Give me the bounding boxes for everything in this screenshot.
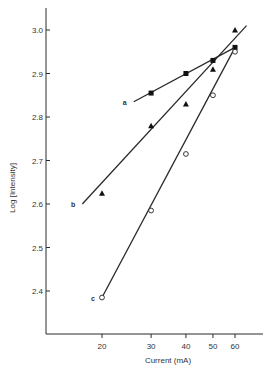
- square-marker: [183, 71, 188, 76]
- y-axis-label: Log [Intensity]: [8, 163, 17, 213]
- y-tick-label: 2.4: [32, 287, 44, 296]
- y-tick-label: 2.9: [32, 70, 44, 79]
- fit-lines: [82, 26, 246, 298]
- series-label-b: b: [71, 201, 75, 208]
- y-tick-label: 2.5: [32, 244, 44, 253]
- fit-line-c: [102, 47, 235, 297]
- x-tick-label: 50: [208, 342, 217, 351]
- chart-svg: 2.42.52.62.72.82.93.02030405060 abc Curr…: [0, 0, 272, 375]
- circle-marker: [100, 295, 105, 300]
- triangle-marker: [99, 190, 105, 196]
- x-tick-label: 40: [181, 342, 190, 351]
- circle-marker: [233, 49, 238, 54]
- triangle-marker: [232, 27, 238, 33]
- fit-line-b: [82, 26, 246, 204]
- triangle-marker: [148, 123, 154, 129]
- circle-marker: [211, 93, 216, 98]
- triangle-marker: [210, 66, 216, 72]
- x-axis-label: Current (mA): [145, 356, 192, 365]
- circle-marker: [184, 152, 189, 157]
- triangle-marker: [183, 101, 189, 107]
- x-tick-label: 20: [98, 342, 107, 351]
- y-tick-label: 2.8: [32, 113, 44, 122]
- series-labels: abc: [71, 99, 127, 302]
- x-tick-label: 30: [147, 342, 156, 351]
- series-label-c: c: [91, 295, 95, 302]
- square-marker: [149, 91, 154, 96]
- y-tick-label: 3.0: [32, 26, 44, 35]
- square-marker: [210, 58, 215, 63]
- x-tick-label: 60: [231, 342, 240, 351]
- circle-marker: [149, 208, 154, 213]
- y-tick-label: 2.6: [32, 200, 44, 209]
- y-tick-label: 2.7: [32, 157, 44, 166]
- chart: 2.42.52.62.72.82.93.02030405060 abc Curr…: [0, 0, 272, 375]
- series-label-a: a: [123, 99, 127, 106]
